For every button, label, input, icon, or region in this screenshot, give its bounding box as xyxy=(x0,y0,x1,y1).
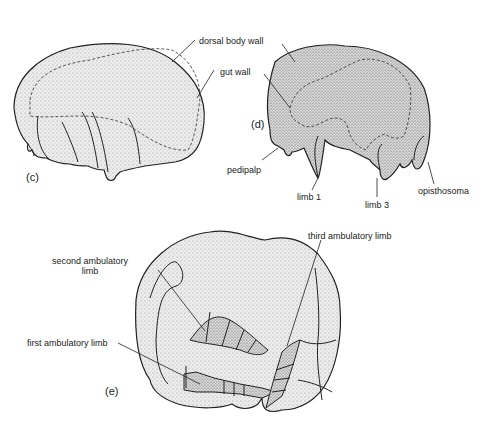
label-limb-1: limb 1 xyxy=(297,192,321,202)
label-third-ambulatory-limb: third ambulatory limb xyxy=(308,231,392,241)
embryo-c xyxy=(14,44,204,181)
leader-limb1 xyxy=(312,178,318,190)
embryo-illustration xyxy=(0,0,482,428)
label-dorsal-body-wall: dorsal body wall xyxy=(199,36,264,46)
label-second-ambulatory-line2: limb xyxy=(82,266,99,276)
embryo-d xyxy=(267,45,430,180)
label-pedipalp: pedipalp xyxy=(227,165,261,175)
embryo-e xyxy=(136,231,341,411)
panel-label-e: (e) xyxy=(105,385,118,397)
panel-label-c: (c) xyxy=(26,171,39,183)
leader-gut-c xyxy=(197,70,214,98)
leader-opisthosoma xyxy=(428,162,434,184)
label-limb-3: limb 3 xyxy=(365,200,389,210)
label-first-ambulatory-limb: first ambulatory limb xyxy=(27,338,108,348)
label-second-ambulatory-limb: second ambulatory limb xyxy=(45,256,135,276)
label-second-ambulatory-line1: second ambulatory xyxy=(52,256,128,266)
label-gut-wall: gut wall xyxy=(220,67,251,77)
leader-pedipalp xyxy=(262,148,278,160)
leader-dorsal-c xyxy=(172,40,195,62)
panel-label-d: (d) xyxy=(251,118,264,130)
label-opisthosoma: opisthosoma xyxy=(418,186,469,196)
